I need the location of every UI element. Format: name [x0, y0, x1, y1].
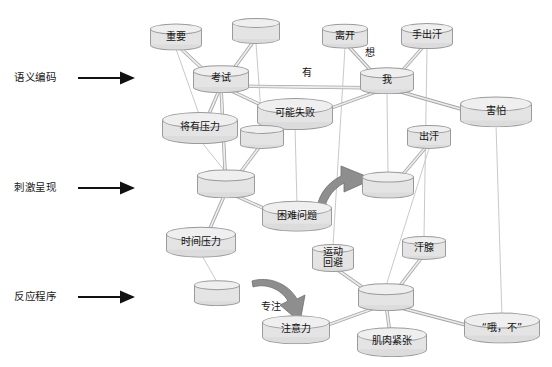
vertical-connector-6: [496, 124, 502, 318]
node-cylinder: 肌肉紧张: [357, 327, 427, 357]
node-n_avoid[interactable]: 运动回避: [312, 244, 354, 272]
node-n_important[interactable]: 重要: [150, 24, 202, 51]
node-label: 时间压力: [181, 236, 221, 247]
node-n_timepress[interactable]: 时间压力: [166, 227, 236, 258]
node-cylinder: 困难问题: [262, 201, 332, 232]
node-n_hardprob[interactable]: 困难问题: [262, 201, 332, 232]
node-n_blank_hub[interactable]: [358, 283, 414, 311]
node-n_blank_bot[interactable]: [194, 280, 240, 306]
cylinder-top: [232, 18, 280, 28]
node-label: 肌肉紧张: [372, 336, 412, 347]
vertical-connector-4: [295, 126, 297, 205]
stage-arrow-group: [78, 78, 133, 297]
node-n_me[interactable]: 我: [360, 67, 414, 94]
node-n_muscle[interactable]: 肌肉紧张: [357, 327, 427, 357]
node-label: 可能失败: [275, 107, 315, 118]
node-cylinder: 我: [360, 67, 414, 94]
curved-arrow-focus-label: 专注: [260, 302, 282, 312]
node-n_sweat[interactable]: 出汗: [407, 125, 451, 149]
node-cylinder: [197, 169, 255, 198]
node-label: 离开: [335, 30, 355, 41]
node-label: 我: [382, 74, 392, 85]
vertical-connector-5: [387, 93, 388, 174]
node-n_afraid[interactable]: 害怕: [460, 96, 532, 127]
node-n_pressure[interactable]: 将有压力: [162, 112, 238, 144]
stage-label-2: 反应程序: [14, 291, 56, 302]
vertical-connector-2: [333, 48, 345, 246]
node-cylinder: 将有压力: [162, 112, 238, 144]
stage-label-0: 语义编码: [14, 72, 56, 83]
node-n_blank_top[interactable]: [232, 18, 280, 44]
node-cylinder: 汗腺: [402, 236, 446, 260]
node-n_blank_mid1[interactable]: [240, 125, 284, 149]
node-cylinder: 害怕: [460, 96, 532, 127]
node-n_ohno[interactable]: “哦，不”: [464, 313, 540, 344]
vertical-connector-9: [201, 254, 217, 282]
node-cylinder: [194, 280, 240, 306]
cylinder-top: [362, 172, 414, 183]
node-label: 注意力: [281, 323, 311, 334]
node-label: 出汗: [419, 130, 439, 141]
cylinder-top: [358, 283, 414, 295]
node-cylinder: 出汗: [407, 125, 451, 149]
diagram-canvas: 语义编码刺激呈现反应程序 重要离开手出汗考试我可能失败害怕将有压力出汗困难问题时…: [0, 0, 552, 367]
cylinder-top: [194, 280, 240, 290]
node-n_sweatgland[interactable]: 汗腺: [402, 236, 446, 260]
node-label: 害怕: [486, 105, 506, 116]
node-cylinder: 手出汗: [401, 23, 453, 49]
node-cylinder: [358, 283, 414, 311]
node-cylinder: [362, 172, 414, 199]
node-cylinder: [232, 18, 280, 44]
node-n_blank_mid2[interactable]: [197, 169, 255, 198]
node-cylinder: 时间压力: [166, 227, 236, 258]
node-label: 手出汗: [412, 30, 442, 41]
edge-label-0: 有: [301, 68, 313, 78]
node-label: 重要: [166, 31, 186, 42]
node-label: 运动回避: [323, 246, 343, 268]
node-label: “哦，不”: [482, 321, 522, 332]
node-n_leave[interactable]: 离开: [322, 24, 368, 49]
node-label: 考试: [211, 73, 231, 84]
node-n_blank_mid3[interactable]: [362, 172, 414, 199]
node-cylinder: 考试: [193, 65, 249, 93]
node-n_exam[interactable]: 考试: [193, 65, 249, 93]
node-cylinder: 运动回避: [312, 244, 354, 272]
node-label: 困难问题: [277, 210, 317, 221]
node-label: 汗腺: [414, 241, 434, 252]
node-cylinder: “哦，不”: [464, 313, 540, 344]
node-cylinder: [240, 125, 284, 149]
stage-label-1: 刺激呈现: [14, 182, 56, 193]
node-cylinder: 重要: [150, 24, 202, 51]
node-n_sweatyhand[interactable]: 手出汗: [401, 23, 453, 49]
node-cylinder: 离开: [322, 24, 368, 49]
node-label: 将有压力: [180, 121, 220, 132]
edge-label-1: 想: [364, 48, 376, 58]
node-cylinder: 注意力: [262, 315, 330, 344]
node-n_attention[interactable]: 注意力: [262, 315, 330, 344]
